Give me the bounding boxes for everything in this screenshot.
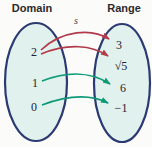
range-value-3: 3 [116, 38, 122, 52]
range-value-sqrt5: √5 [115, 59, 128, 73]
domain-value-0: 0 [31, 100, 37, 114]
mapping-diagram: Domain Range s 2 1 0 3 √5 6 −1 [0, 0, 152, 147]
range-value-neg1: −1 [115, 101, 128, 115]
range-title: Range [107, 2, 141, 14]
relation-name-label: s [74, 15, 78, 26]
domain-value-2: 2 [31, 45, 37, 59]
domain-title: Domain [12, 2, 53, 14]
mapping-diagram-canvas: Domain Range s 2 1 0 3 √5 6 −1 [0, 0, 152, 147]
domain-value-1: 1 [32, 76, 38, 90]
range-value-6: 6 [120, 81, 126, 95]
